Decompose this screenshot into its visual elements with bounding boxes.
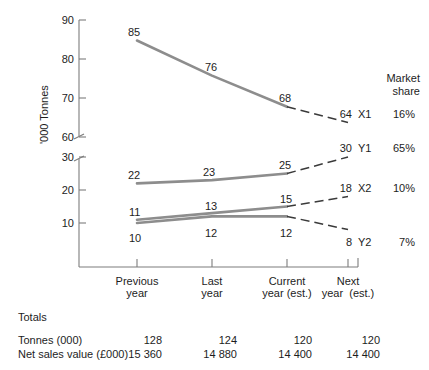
y-axis-title: '000 Tonnes bbox=[38, 85, 50, 144]
value-label-x1-previous-year: 85 bbox=[128, 27, 140, 38]
x-category-next-year-line1: Next bbox=[304, 275, 392, 288]
y-tick-label-60: 60 bbox=[52, 132, 74, 143]
x-category-previous-year-line2: year bbox=[97, 287, 177, 300]
market-share-y2: 7% bbox=[385, 237, 415, 248]
totals-tonnes-next-year: 120 bbox=[318, 333, 380, 347]
totals-heading: Totals bbox=[18, 310, 47, 324]
value-label-y1-previous-year: 22 bbox=[128, 170, 140, 181]
value-label-x2-previous-year: 11 bbox=[129, 207, 140, 218]
y-tick-label-30: 30 bbox=[52, 152, 74, 163]
value-label-x1-next-year: 64 bbox=[336, 109, 352, 120]
totals-net-sales-current-year: 14 400 bbox=[250, 347, 312, 361]
x-category-next-year-line2: year (est.) bbox=[304, 287, 392, 300]
y-tick-label-70: 70 bbox=[52, 93, 74, 104]
series-name-y2: Y2 bbox=[358, 237, 371, 248]
value-label-y2-next-year: 8 bbox=[336, 237, 352, 248]
value-label-y2-previous-year: 10 bbox=[129, 233, 141, 244]
series-name-y1: Y1 bbox=[358, 143, 371, 154]
series-x1-actual-line bbox=[137, 41, 287, 107]
value-label-x1-current-year: 68 bbox=[279, 93, 291, 104]
totals-net-sales-previous-year: 15 360 bbox=[100, 347, 162, 361]
value-label-y1-last-year: 23 bbox=[203, 167, 215, 178]
series-name-x2: X2 bbox=[358, 183, 371, 194]
y-tick-label-80: 80 bbox=[52, 54, 74, 65]
totals-tonnes-current-year: 120 bbox=[250, 333, 312, 347]
totals-tonnes-previous-year: 128 bbox=[100, 333, 162, 347]
series-y1-forecast-line bbox=[287, 157, 348, 174]
value-label-y1-current-year: 25 bbox=[279, 160, 291, 171]
y-tick-label-10: 10 bbox=[52, 218, 74, 229]
x-category-last-year-line1: Last bbox=[172, 275, 252, 288]
value-label-x1-last-year: 76 bbox=[205, 62, 217, 73]
market-share-y1: 65% bbox=[385, 143, 415, 154]
series-y2-forecast-line bbox=[287, 216, 348, 229]
value-label-x2-next-year: 18 bbox=[336, 183, 352, 194]
totals-tonnes-last-year: 124 bbox=[175, 333, 237, 347]
totals-row-label-tonnes: Tonnes (000) bbox=[18, 333, 82, 347]
value-label-y2-last-year: 12 bbox=[205, 228, 217, 239]
x-category-last-year-line2: year bbox=[172, 287, 252, 300]
series-x2-forecast-line bbox=[287, 197, 348, 207]
y-tick-label-20: 20 bbox=[52, 185, 74, 196]
y-tick-label-90: 90 bbox=[52, 15, 74, 26]
value-label-y2-current-year: 12 bbox=[280, 228, 292, 239]
market-share-header-line2: share bbox=[358, 85, 420, 98]
series-name-x1: X1 bbox=[358, 109, 371, 120]
market-share-x1: 16% bbox=[385, 109, 415, 120]
value-label-x2-current-year: 15 bbox=[280, 194, 292, 205]
totals-net-sales-next-year: 14 400 bbox=[318, 347, 380, 361]
value-label-y1-next-year: 30 bbox=[336, 143, 352, 154]
market-share-x2: 10% bbox=[385, 183, 415, 194]
chart-container: '000 Tonnes 90 80 70 60 30 20 10 85 76 6… bbox=[0, 0, 429, 370]
totals-net-sales-last-year: 14 880 bbox=[175, 347, 237, 361]
market-share-header-line1: Market bbox=[358, 72, 420, 85]
value-label-x2-last-year: 13 bbox=[205, 201, 217, 212]
x-category-previous-year-line1: Previous bbox=[97, 275, 177, 288]
